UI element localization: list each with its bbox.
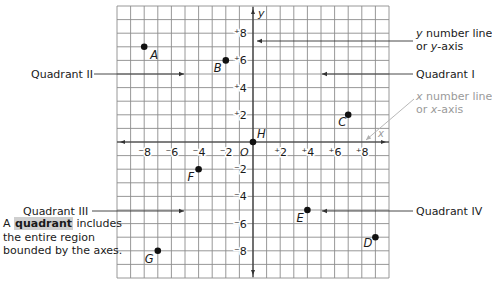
- y-axis-callout-arrow-arrowhead-icon: [257, 39, 262, 43]
- y-axis-arrow-down-icon: [251, 270, 255, 275]
- y-axis-label: y: [257, 7, 265, 20]
- x-tick-label: ⁻2: [220, 146, 233, 159]
- x-tick-label: ⁺8: [356, 146, 369, 159]
- label-x-axis-line1: x number line: [416, 90, 492, 103]
- x-tick-label: ⁺2: [274, 146, 287, 159]
- point-label-a: A: [149, 48, 158, 62]
- note-prefix: A: [3, 217, 11, 230]
- quadrant-3-callout-arrow-arrowhead-icon: [179, 209, 184, 213]
- note-term-highlight: quadrant: [14, 217, 73, 230]
- y-tick-label: ⁻6: [234, 218, 247, 231]
- x-axis-arrow-right-icon: [381, 140, 386, 144]
- point-label-h: H: [257, 127, 266, 141]
- origin-label: O: [240, 146, 249, 159]
- y-tick-label: ⁺2: [234, 109, 247, 122]
- y-tick-label: ⁺4: [234, 82, 247, 95]
- quadrant-definition-note: A quadrant includes the entire region bo…: [3, 217, 143, 258]
- quadrant-1-callout-arrow-arrowhead-icon: [322, 72, 327, 76]
- x-tick-label: ⁻8: [138, 146, 151, 159]
- point-label-c: C: [338, 115, 346, 129]
- y-tick-label: ⁺8: [234, 27, 247, 40]
- point-a: [141, 44, 148, 51]
- label-quadrant-1: Quadrant I: [416, 68, 475, 81]
- label-y-axis-line2: or y-axis: [416, 40, 463, 53]
- x-axis-callout-arrow: [366, 99, 414, 140]
- label-quadrant-4: Quadrant IV: [416, 205, 482, 218]
- x-tick-label: ⁺6: [329, 146, 342, 159]
- point-g: [155, 248, 162, 255]
- y-tick-label: ⁺6: [234, 54, 247, 67]
- label-y-axis-line1: y number line: [416, 27, 492, 40]
- y-tick-label: ⁻8: [234, 245, 247, 258]
- point-b: [223, 57, 230, 64]
- y-tick-label: ⁻4: [234, 190, 247, 203]
- y-tick-label: ⁻2: [234, 163, 247, 176]
- x-tick-label: ⁻4: [193, 146, 206, 159]
- point-f: [195, 166, 202, 173]
- point-d: [372, 234, 379, 241]
- point-label-d: D: [363, 236, 372, 250]
- y-axis-arrow-up-icon: [251, 9, 255, 14]
- x-tick-label: ⁺4: [301, 146, 314, 159]
- x-tick-label: ⁻6: [165, 146, 178, 159]
- quadrant-4-callout-arrow-arrowhead-icon: [322, 209, 327, 213]
- point-label-e: E: [296, 211, 304, 225]
- point-h: [250, 139, 257, 146]
- x-axis-arrow-left-icon: [120, 140, 125, 144]
- point-e: [304, 207, 311, 214]
- label-x-axis-line2: or x-axis: [416, 103, 463, 116]
- point-label-b: B: [214, 61, 222, 75]
- point-label-g: G: [145, 252, 154, 266]
- label-quadrant-2: Quadrant II: [31, 68, 93, 81]
- point-label-f: F: [188, 170, 195, 184]
- quadrant-2-callout-arrow-arrowhead-icon: [179, 72, 184, 76]
